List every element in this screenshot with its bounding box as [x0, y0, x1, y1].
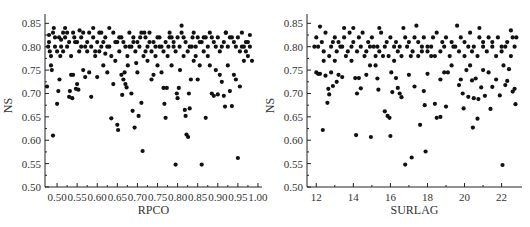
- data-point: [429, 45, 433, 49]
- data-point: [51, 31, 55, 35]
- data-point: [228, 89, 232, 93]
- data-point: [145, 45, 149, 49]
- data-point: [61, 31, 65, 35]
- data-point: [490, 85, 494, 89]
- data-point: [457, 49, 461, 53]
- data-point: [56, 89, 60, 93]
- data-point: [67, 40, 71, 44]
- data-point: [103, 52, 107, 56]
- data-point: [351, 26, 355, 30]
- y-tick-label: 0.75: [22, 64, 42, 76]
- rpco-scatter-panel: 0.500.550.600.650.700.750.800.850.500.55…: [1, 14, 268, 217]
- data-point: [472, 96, 476, 100]
- data-point: [206, 45, 210, 49]
- data-point: [57, 77, 61, 81]
- data-point: [234, 45, 238, 49]
- data-point: [85, 49, 89, 53]
- data-point: [95, 40, 99, 44]
- data-point: [346, 49, 350, 53]
- data-point: [505, 79, 509, 83]
- data-point: [451, 45, 455, 49]
- data-point: [49, 54, 53, 58]
- data-point: [210, 35, 214, 39]
- data-point: [164, 116, 168, 120]
- data-point: [222, 40, 226, 44]
- data-point: [139, 101, 143, 105]
- data-point: [513, 87, 517, 91]
- data-point: [157, 45, 161, 49]
- data-point: [429, 54, 433, 58]
- data-point: [388, 35, 392, 39]
- data-point: [335, 80, 339, 84]
- data-point: [333, 35, 337, 39]
- data-point: [180, 24, 184, 28]
- data-point: [151, 73, 155, 77]
- data-point: [498, 93, 502, 97]
- y-tick-label: 0.85: [284, 17, 304, 29]
- data-point: [57, 35, 61, 39]
- data-point: [58, 54, 62, 58]
- data-point: [81, 68, 85, 72]
- data-point: [99, 31, 103, 35]
- data-point: [475, 54, 479, 58]
- data-point: [202, 35, 206, 39]
- data-point: [438, 49, 442, 53]
- data-point: [407, 40, 411, 44]
- data-point: [220, 80, 224, 84]
- data-point: [131, 35, 135, 39]
- data-point: [462, 40, 466, 44]
- data-point: [147, 31, 151, 35]
- data-point: [196, 35, 200, 39]
- x-tick-label: 18: [422, 191, 434, 203]
- data-point: [479, 85, 483, 89]
- data-point: [440, 40, 444, 44]
- data-point: [234, 77, 238, 81]
- data-point: [435, 31, 439, 35]
- y-tick-label: 0.50: [22, 181, 42, 193]
- data-point: [513, 45, 517, 49]
- y-tick-label: 0.70: [22, 87, 42, 99]
- data-point: [151, 40, 155, 44]
- data-point: [55, 49, 59, 53]
- data-point: [47, 40, 51, 44]
- data-point: [390, 90, 394, 94]
- data-point: [93, 49, 97, 53]
- data-point: [418, 123, 422, 127]
- data-point: [336, 40, 340, 44]
- data-point: [342, 35, 346, 39]
- data-point: [147, 40, 151, 44]
- data-point: [53, 45, 57, 49]
- data-point: [314, 35, 318, 39]
- data-point: [89, 45, 93, 49]
- data-point: [370, 35, 374, 39]
- data-point: [466, 95, 470, 99]
- data-point: [48, 49, 52, 53]
- data-point: [246, 40, 250, 44]
- data-point: [394, 76, 398, 80]
- data-point: [138, 35, 142, 39]
- data-point: [359, 86, 363, 90]
- data-point: [416, 40, 420, 44]
- data-point: [77, 49, 81, 53]
- scatter-figure: 0.500.550.600.650.700.750.800.850.500.55…: [0, 0, 530, 227]
- data-point: [194, 45, 198, 49]
- data-point: [481, 68, 485, 72]
- data-point: [135, 40, 139, 44]
- data-point: [79, 35, 83, 39]
- data-point: [329, 70, 333, 74]
- x-tick-label: 12: [311, 191, 322, 203]
- data-point: [131, 109, 135, 113]
- data-point: [129, 91, 133, 95]
- data-point: [139, 31, 143, 35]
- data-point: [368, 45, 372, 49]
- data-point: [483, 94, 487, 98]
- data-point: [487, 70, 491, 74]
- data-point: [113, 59, 117, 63]
- data-point: [340, 75, 344, 79]
- x-tick-label: 16: [385, 191, 397, 203]
- data-point: [174, 49, 178, 53]
- data-point: [425, 45, 429, 49]
- data-point: [93, 54, 97, 58]
- x-tick-label: 1.00: [248, 191, 268, 203]
- data-point: [214, 45, 218, 49]
